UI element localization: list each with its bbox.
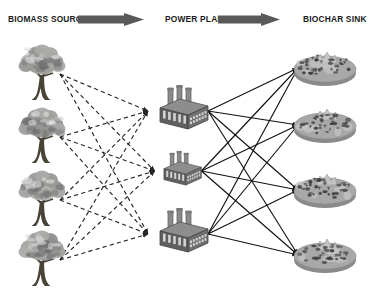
factory-icon bbox=[146, 207, 210, 259]
solid-link-group bbox=[201, 68, 298, 255]
power-plant-node[interactable] bbox=[146, 84, 210, 140]
dashed-link bbox=[60, 74, 155, 171]
factory-icon bbox=[146, 84, 210, 136]
factory-icon bbox=[153, 150, 203, 191]
field-plot-icon bbox=[289, 103, 361, 147]
solid-link bbox=[208, 234, 298, 255]
biomass-source-node[interactable] bbox=[11, 41, 73, 107]
biomass-source-node[interactable] bbox=[11, 227, 73, 293]
solid-link bbox=[208, 111, 298, 255]
biochar-sink-node[interactable] bbox=[289, 103, 361, 151]
solid-link bbox=[201, 125, 298, 171]
biochar-sink-node[interactable] bbox=[289, 46, 361, 94]
dashed-link bbox=[60, 200, 148, 234]
field-plot-icon bbox=[289, 168, 361, 212]
biomass-source-node[interactable] bbox=[11, 167, 73, 233]
dashed-link bbox=[60, 74, 148, 234]
solid-link bbox=[208, 68, 298, 111]
power-plant-node[interactable] bbox=[153, 150, 203, 195]
dashed-link bbox=[60, 137, 155, 171]
solid-link bbox=[201, 68, 298, 171]
field-plot-icon bbox=[289, 46, 361, 90]
tree-icon bbox=[11, 167, 73, 229]
dashed-link bbox=[60, 171, 155, 260]
biomass-source-node[interactable] bbox=[11, 104, 73, 170]
biochar-sink-node[interactable] bbox=[289, 233, 361, 281]
solid-link bbox=[208, 68, 298, 234]
dashed-link bbox=[60, 171, 155, 200]
dashed-link-group bbox=[60, 74, 155, 260]
tree-icon bbox=[11, 41, 73, 103]
solid-link bbox=[208, 125, 298, 234]
tree-icon bbox=[11, 104, 73, 166]
dashed-link bbox=[60, 137, 148, 234]
solid-link bbox=[201, 171, 298, 190]
solid-link bbox=[208, 190, 298, 234]
power-plant-node[interactable] bbox=[146, 207, 210, 263]
biochar-sink-node[interactable] bbox=[289, 168, 361, 216]
tree-icon bbox=[11, 227, 73, 289]
field-plot-icon bbox=[289, 233, 361, 277]
dashed-link bbox=[60, 74, 148, 111]
diagram-canvas: BIOMASS SOURCE POWER PLANT BIOCHAR SINK bbox=[0, 0, 370, 300]
